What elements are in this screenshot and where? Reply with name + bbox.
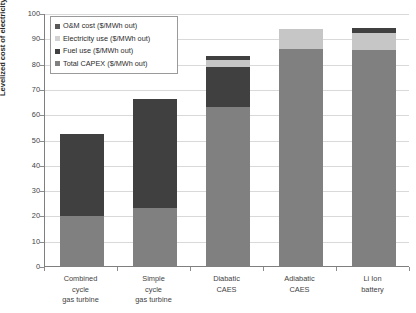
legend-entry[interactable]: Electricity use ($/MWh out) bbox=[55, 33, 173, 46]
legend-label: Electricity use ($/MWh out) bbox=[63, 35, 150, 43]
bar-segment[interactable] bbox=[206, 107, 250, 266]
legend-entry[interactable]: Fuel use ($/MWh out) bbox=[55, 45, 173, 58]
y-tick-label: 100 bbox=[0, 10, 40, 18]
legend-entry[interactable]: Total CAPEX ($/MWh out) bbox=[55, 58, 173, 71]
y-tick-label: 70 bbox=[0, 86, 40, 94]
legend-label: Total CAPEX ($/MWh out) bbox=[63, 60, 147, 68]
bar-segment[interactable] bbox=[279, 29, 323, 48]
bar-column[interactable] bbox=[352, 13, 396, 266]
y-tick-label: 40 bbox=[0, 162, 40, 170]
y-tick-label: 60 bbox=[0, 111, 40, 119]
y-tick-label: 50 bbox=[0, 137, 40, 145]
chart-legend: O&M cost ($/MWh out)Electricity use ($/M… bbox=[50, 16, 178, 74]
bar-segment[interactable] bbox=[133, 99, 177, 108]
legend-label: Fuel use ($/MWh out) bbox=[63, 47, 133, 55]
x-category-line: Li Ion bbox=[328, 274, 416, 285]
y-tick-label: 10 bbox=[0, 238, 40, 246]
y-tick-label: 0 bbox=[0, 263, 40, 271]
x-tick-mark bbox=[190, 267, 191, 271]
bar-segment[interactable] bbox=[352, 50, 396, 266]
bar-segment[interactable] bbox=[352, 28, 396, 33]
legend-swatch-icon bbox=[55, 61, 60, 66]
y-tick-label: 20 bbox=[0, 212, 40, 220]
x-tick-mark bbox=[44, 267, 45, 271]
x-tick-mark bbox=[117, 267, 118, 271]
y-tick-label: 80 bbox=[0, 61, 40, 69]
x-category-line: battery bbox=[328, 285, 416, 296]
legend-label: O&M cost ($/MWh out) bbox=[63, 22, 137, 30]
bar-segment[interactable] bbox=[60, 138, 104, 216]
bar-segment[interactable] bbox=[133, 108, 177, 208]
x-category-line: gas turbine bbox=[109, 295, 199, 306]
bar-segment[interactable] bbox=[206, 67, 250, 106]
x-tick-mark bbox=[409, 267, 410, 271]
bar-segment[interactable] bbox=[206, 56, 250, 60]
x-tick-mark bbox=[263, 267, 264, 271]
y-tick-label: 30 bbox=[0, 187, 40, 195]
bar-segment[interactable] bbox=[352, 33, 396, 50]
bar-column[interactable] bbox=[206, 13, 250, 266]
bar-segment[interactable] bbox=[60, 134, 104, 138]
legend-swatch-icon bbox=[55, 49, 60, 54]
bar-segment[interactable] bbox=[133, 208, 177, 266]
x-category-label: Li Ionbattery bbox=[328, 274, 416, 295]
bar-segment[interactable] bbox=[60, 216, 104, 266]
levelized-cost-bar-chart: Levelized cost of electricity ($/MWh) 10… bbox=[0, 0, 416, 313]
bar-segment[interactable] bbox=[206, 60, 250, 68]
legend-swatch-icon bbox=[55, 36, 60, 41]
legend-entry[interactable]: O&M cost ($/MWh out) bbox=[55, 20, 173, 33]
bar-column[interactable] bbox=[279, 13, 323, 266]
legend-swatch-icon bbox=[55, 24, 60, 29]
x-tick-mark bbox=[336, 267, 337, 271]
y-tick-label: 90 bbox=[0, 35, 40, 43]
bar-segment[interactable] bbox=[279, 49, 323, 266]
